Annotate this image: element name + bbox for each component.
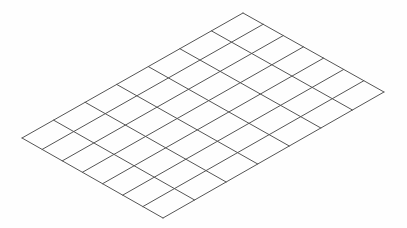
- grid-line: [143, 81, 364, 207]
- grid-line: [163, 92, 384, 218]
- grid-line: [103, 58, 324, 184]
- grid-line: [54, 120, 195, 200]
- grid-line: [123, 69, 344, 195]
- grid-line: [243, 13, 384, 92]
- grid-line: [85, 102, 226, 182]
- grid-line: [22, 13, 243, 138]
- diagram-canvas: [0, 0, 407, 228]
- isometric-grid: [0, 0, 407, 228]
- grid-line: [117, 84, 258, 164]
- grid-line: [22, 138, 163, 218]
- grid-line: [42, 24, 263, 149]
- grid-line: [211, 31, 352, 110]
- grid-line: [82, 47, 303, 172]
- grid-line: [180, 49, 321, 128]
- grid-line: [62, 36, 283, 161]
- grid-lines: [22, 13, 384, 218]
- grid-line: [148, 67, 289, 146]
